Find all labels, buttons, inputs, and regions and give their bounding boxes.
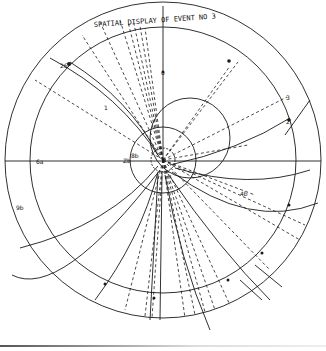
page-edge-rule [0,345,326,347]
label-right: 2 [286,118,290,125]
label-left-axis: 6a [36,158,44,165]
label-left-lower: 9b [16,204,24,211]
diagram-title: SPATIAL DISPLAY OF EVENT NO 3 [94,12,216,29]
diagram-canvas: SPATIAL DISPLAY OF EVENT NO 3 6a Zb 8b 3… [0,0,326,351]
label-upper-right: 3 [286,94,290,101]
event-display-diagram: SPATIAL DISPLAY OF EVENT NO 3 6a Zb 8b 3… [0,0,326,351]
label-lower-right: 4b [240,190,248,197]
label-upper-left: 26 [60,62,68,69]
label-center-left: Zb [123,157,131,164]
label-center-small: 8b [131,152,139,159]
label-track-upper: 1 [104,104,108,111]
label-top-axis: 0 [161,69,165,76]
